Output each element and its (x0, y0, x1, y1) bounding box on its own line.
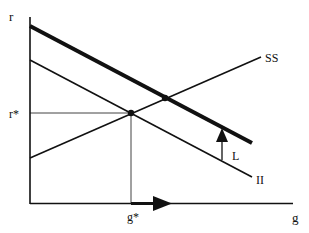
ii-curve (30, 60, 252, 177)
y-axis-label: r (9, 9, 14, 24)
curve-diagram: r g r* g* II SS L (0, 0, 309, 233)
ss-curve-label: SS (265, 51, 278, 65)
x-axis-label: g (292, 210, 299, 225)
ii-curve-label: II (256, 173, 264, 187)
g-star-label: g* (127, 210, 139, 224)
r-star-label: r* (9, 107, 19, 121)
shift-label: L (232, 149, 239, 163)
equilibrium-point-initial (128, 110, 134, 116)
shifted-ii-curve (30, 26, 252, 143)
equilibrium-point-new (162, 95, 168, 101)
g-arrow-head (153, 196, 172, 211)
ss-curve (30, 57, 261, 158)
